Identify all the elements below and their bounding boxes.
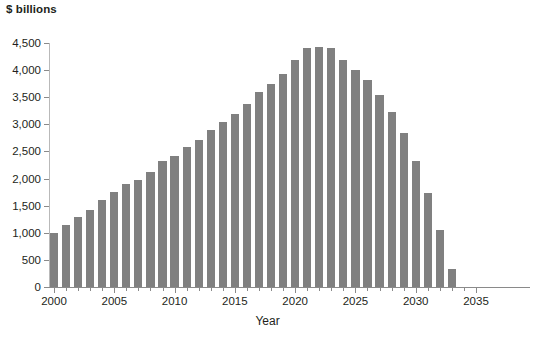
x-axis-major-tick: [476, 287, 477, 293]
x-axis-tick-label: 2015: [222, 295, 248, 307]
y-tick-group: 0: [49, 287, 50, 288]
bar: [291, 60, 299, 287]
y-axis-tick-label: 4,500: [12, 37, 41, 49]
bar: [243, 104, 251, 287]
y-axis-tick-label: 1,000: [12, 227, 41, 239]
x-axis-minor-tick: [247, 287, 248, 291]
x-axis-minor-tick: [452, 287, 453, 291]
x-axis-minor-tick: [392, 287, 393, 291]
bar: [267, 84, 275, 287]
x-axis-major-tick: [295, 287, 296, 293]
y-axis-unit-title: $ billions: [6, 3, 57, 15]
y-axis-tick-label: 3,500: [12, 91, 41, 103]
x-axis-minor-tick: [66, 287, 67, 291]
x-axis-line: [49, 287, 530, 288]
x-axis-major-tick: [235, 287, 236, 293]
bar: [375, 95, 383, 287]
y-axis-tick-label: 4,000: [12, 64, 41, 76]
bar: [207, 130, 215, 287]
bar-series: [49, 37, 530, 287]
bar: [303, 48, 311, 287]
bar: [424, 193, 432, 287]
x-axis-tick-label: 2030: [403, 295, 429, 307]
bar: [219, 122, 227, 287]
bar: [146, 172, 154, 287]
x-axis-minor-tick: [331, 287, 332, 291]
x-axis-major-tick: [54, 287, 55, 293]
x-axis-minor-tick: [307, 287, 308, 291]
y-axis-tick-label: 3,000: [12, 118, 41, 130]
bar: [62, 225, 70, 287]
y-axis-tick: [44, 287, 49, 288]
bar: [279, 74, 287, 287]
bar: [255, 92, 263, 287]
bar: [158, 161, 166, 287]
x-axis-minor-tick: [404, 287, 405, 291]
bar-chart-figure: $ billions 05001,0001,5002,0002,5003,000…: [0, 0, 535, 348]
x-axis-major-tick: [355, 287, 356, 293]
bar: [339, 60, 347, 287]
bar: [327, 48, 335, 287]
x-axis-minor-tick: [187, 287, 188, 291]
bar: [388, 112, 396, 287]
bar: [122, 184, 130, 287]
bar: [315, 47, 323, 287]
x-axis-minor-tick: [211, 287, 212, 291]
x-axis-minor-tick: [367, 287, 368, 291]
x-axis-tick-label: 2010: [162, 295, 188, 307]
x-axis-minor-tick: [78, 287, 79, 291]
plot-area: 05001,0001,5002,0002,5003,0003,5004,0004…: [49, 37, 530, 287]
x-axis-minor-tick: [90, 287, 91, 291]
y-axis-tick-label: 1,500: [12, 200, 41, 212]
x-axis-minor-tick: [343, 287, 344, 291]
x-axis-minor-tick: [271, 287, 272, 291]
bar: [412, 161, 420, 287]
y-axis-tick-label: 500: [22, 254, 41, 266]
x-axis-major-tick: [175, 287, 176, 293]
x-axis-tick-label: 2005: [101, 295, 127, 307]
bar: [183, 147, 191, 287]
y-axis-tick-label: 2,500: [12, 145, 41, 157]
bar: [134, 180, 142, 287]
bar: [98, 200, 106, 287]
bar: [195, 140, 203, 287]
x-axis-minor-tick: [138, 287, 139, 291]
bar: [50, 233, 58, 287]
x-axis-major-tick: [416, 287, 417, 293]
bar: [110, 192, 118, 287]
x-axis-minor-tick: [102, 287, 103, 291]
x-axis-minor-tick: [440, 287, 441, 291]
y-axis-tick-label: 2,000: [12, 173, 41, 185]
x-axis-minor-tick: [380, 287, 381, 291]
x-axis-tick-label: 2035: [463, 295, 489, 307]
bar: [170, 156, 178, 287]
bar: [363, 80, 371, 287]
x-axis-minor-tick: [464, 287, 465, 291]
x-axis-minor-tick: [223, 287, 224, 291]
x-axis-minor-tick: [259, 287, 260, 291]
x-axis-minor-tick: [126, 287, 127, 291]
x-axis-tick-label: 2020: [282, 295, 308, 307]
bar: [351, 70, 359, 287]
x-axis-minor-tick: [319, 287, 320, 291]
bar: [74, 217, 82, 287]
bar: [86, 210, 94, 287]
x-axis-tick-label: 2000: [41, 295, 67, 307]
bar: [436, 230, 444, 287]
x-axis-title: Year: [0, 314, 535, 328]
bar: [231, 114, 239, 288]
x-axis-tick-label: 2025: [343, 295, 369, 307]
x-axis-major-tick: [114, 287, 115, 293]
bar: [400, 133, 408, 287]
x-axis-minor-tick: [150, 287, 151, 291]
y-axis-tick-label: 0: [35, 281, 41, 293]
x-axis-minor-tick: [283, 287, 284, 291]
x-axis-minor-tick: [428, 287, 429, 291]
x-axis-minor-tick: [199, 287, 200, 291]
x-axis-minor-tick: [163, 287, 164, 291]
bar: [448, 269, 456, 287]
